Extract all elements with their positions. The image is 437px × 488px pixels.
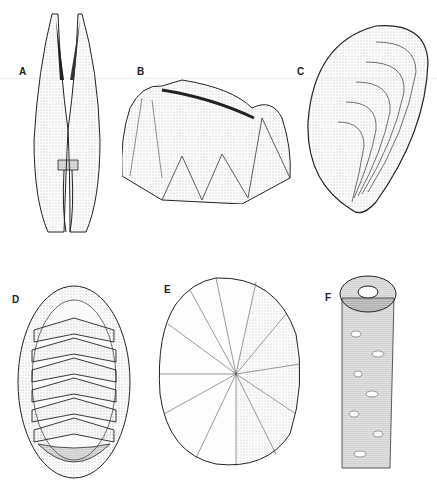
panel-label-c: C [297,66,304,77]
panel-label-a: A [19,66,26,77]
panel-e-limpet [156,274,304,468]
panel-b-barnacle [122,78,294,204]
panel-label-f: F [325,292,331,303]
panel-c-mussel [306,22,430,216]
panel-f-tube-worm [338,274,402,472]
illustration-plate: A B C D [0,0,437,488]
panel-d-chiton [16,284,132,480]
panel-label-b: B [137,66,144,77]
panel-a-bivalve [28,10,108,238]
